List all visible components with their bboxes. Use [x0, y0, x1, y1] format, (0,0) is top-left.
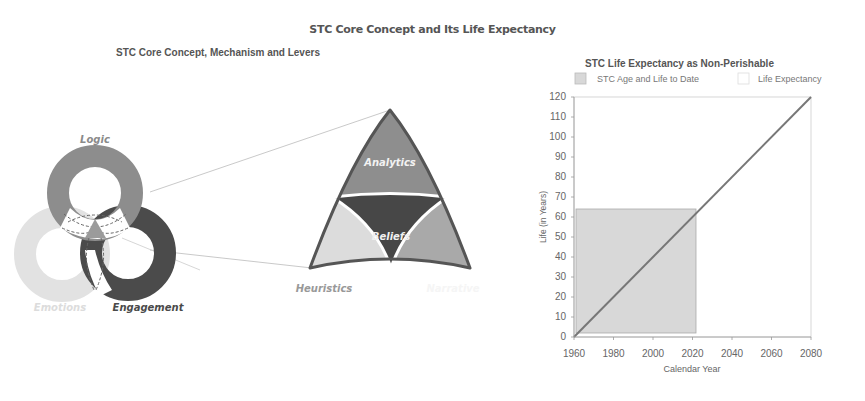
figure-canvas: Logic Emotions Engagement Analytics Heur…: [0, 0, 865, 401]
svg-text:2060: 2060: [760, 348, 783, 359]
triangle-label-heuristics: Heuristics: [296, 283, 353, 294]
svg-text:20: 20: [555, 291, 567, 302]
svg-text:2080: 2080: [800, 348, 823, 359]
svg-text:1980: 1980: [602, 348, 625, 359]
svg-text:40: 40: [555, 251, 567, 262]
legend-swatch-age: [575, 73, 586, 84]
svg-text:0: 0: [560, 331, 566, 342]
svg-text:60: 60: [555, 211, 567, 222]
segment-analytics: [300, 100, 480, 198]
triangle-label-analytics: Analytics: [363, 157, 416, 168]
triangle-label-beliefs: Beliefs: [372, 231, 410, 242]
svg-text:2000: 2000: [642, 348, 665, 359]
svg-text:2020: 2020: [681, 348, 704, 359]
triangle-label-narrative: Narrative: [426, 283, 479, 294]
svg-text:120: 120: [549, 91, 566, 102]
svg-text:100: 100: [549, 131, 566, 142]
svg-text:50: 50: [555, 231, 567, 242]
venn-diagram: [25, 145, 165, 296]
legend-label-life: Life Expectancy: [758, 74, 822, 84]
life-expectancy-chart: STC Age and Life to Date Life Expectancy…: [538, 73, 823, 374]
x-axis: 1960 1980 2000 2020 2040 2060 2080: [563, 337, 823, 359]
y-axis-label: Life (in Years): [538, 191, 548, 243]
svg-text:110: 110: [550, 111, 566, 122]
legend-swatch-life: [738, 73, 749, 84]
levers-triangle: [300, 100, 480, 280]
x-axis-label: Calendar Year: [663, 364, 720, 374]
svg-text:30: 30: [555, 271, 567, 282]
svg-text:70: 70: [555, 191, 567, 202]
svg-text:90: 90: [555, 151, 567, 162]
venn-label-engagement: Engagement: [113, 302, 185, 313]
age-to-date-area: [576, 209, 696, 333]
venn-label-emotions: Emotions: [34, 302, 86, 313]
legend-label-age: STC Age and Life to Date: [597, 74, 699, 84]
svg-text:80: 80: [555, 171, 567, 182]
venn-label-logic: Logic: [80, 134, 110, 145]
svg-text:2040: 2040: [721, 348, 744, 359]
svg-text:1960: 1960: [563, 348, 586, 359]
svg-text:10: 10: [555, 311, 567, 322]
y-axis: 0 10 20 30 40 50 60 70 80 90 100 110 120: [549, 91, 574, 342]
